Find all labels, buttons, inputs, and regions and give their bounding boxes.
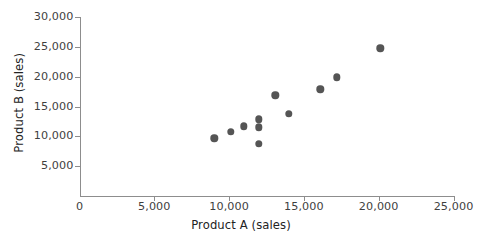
data-points-layer	[80, 17, 454, 196]
data-point	[317, 86, 324, 93]
scatter-chart: 5,00010,00015,00020,00025,00030,000 05,0…	[0, 0, 482, 240]
x-axis-tick-label: 10,000	[209, 201, 249, 212]
data-point	[227, 128, 234, 135]
y-axis-title: Product B (sales)	[14, 23, 26, 183]
data-point	[285, 110, 292, 117]
data-point	[255, 124, 262, 131]
x-axis-tick-label: 20,000	[359, 201, 399, 212]
data-point	[272, 92, 279, 99]
y-axis-tick-label: 30,000	[6, 12, 74, 23]
data-point	[376, 45, 383, 52]
x-axis-tick-label: 25,000	[434, 201, 474, 212]
data-point	[255, 140, 262, 147]
data-point	[255, 115, 262, 122]
x-axis-tick-label: 0	[76, 201, 83, 212]
data-point	[240, 123, 247, 130]
data-point	[210, 135, 217, 142]
x-axis-title: Product A (sales)	[0, 220, 482, 232]
x-axis-line	[80, 196, 454, 197]
data-point	[333, 74, 340, 81]
x-axis-tick-label: 5,000	[138, 201, 171, 212]
x-axis-tick-label: 15,000	[284, 201, 324, 212]
